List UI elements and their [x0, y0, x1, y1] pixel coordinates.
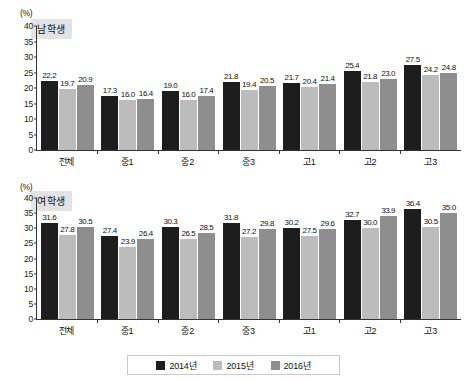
bar: 36.4 [404, 209, 421, 319]
bar-value-label: 27.2 [242, 227, 256, 236]
x-axis-label: 전체 [36, 155, 97, 168]
bar-value-label: 16.0 [121, 90, 135, 99]
bar-value-label: 23.0 [381, 69, 395, 78]
bar-value-label: 30.5 [78, 217, 92, 226]
x-axis-label: 고2 [340, 324, 401, 337]
bar: 26.4 [137, 239, 154, 319]
chart-page: (%) 남학생 0510152025303540 22.219.720.917.… [0, 0, 468, 382]
bar: 30.5 [77, 227, 94, 319]
x-axis-labels-male: 전체중1중2중3고1고2고3 [36, 155, 461, 168]
bar: 27.8 [59, 235, 76, 319]
bar: 30.2 [283, 228, 300, 319]
bar-value-label: 21.8 [224, 72, 238, 81]
bar: 21.4 [319, 84, 336, 150]
bar: 29.8 [259, 229, 276, 319]
y-axis-unit-male: (%) [20, 8, 32, 18]
bar-value-label: 22.2 [42, 71, 56, 80]
bar-value-label: 27.8 [60, 225, 74, 234]
bar-group: 27.423.926.4 [98, 198, 159, 319]
bar-value-label: 26.4 [139, 229, 153, 238]
bar-value-label: 30.2 [285, 218, 299, 227]
bar: 32.7 [344, 220, 361, 319]
bar-value-label: 16.0 [181, 90, 195, 99]
bar-group: 22.219.720.9 [37, 26, 98, 150]
bar: 30.0 [362, 228, 379, 319]
bar: 31.8 [223, 223, 240, 319]
bar: 19.0 [162, 91, 179, 150]
legend-label: 2016년 [284, 359, 311, 372]
bar-value-label: 30.5 [424, 217, 438, 226]
bar-groups-male: 22.219.720.917.316.016.419.016.017.421.8… [37, 26, 461, 150]
bar: 30.3 [162, 227, 179, 319]
bar-value-label: 26.5 [181, 229, 195, 238]
x-axis-label: 중2 [157, 324, 218, 337]
bar: 16.4 [137, 99, 154, 150]
bar: 16.0 [119, 100, 136, 150]
bar-value-label: 25.4 [345, 61, 359, 70]
bar-value-label: 24.2 [424, 65, 438, 74]
bar: 29.6 [319, 229, 336, 319]
legend-item: 2016년 [271, 359, 311, 372]
bar: 27.5 [301, 236, 318, 319]
bar-value-label: 20.5 [260, 76, 274, 85]
legend-swatch-icon [271, 361, 280, 370]
bar: 28.5 [198, 233, 215, 319]
x-axis-label: 중1 [97, 324, 158, 337]
bar-value-label: 21.7 [285, 73, 299, 82]
bar-group: 19.016.017.4 [158, 26, 219, 150]
bar: 20.5 [259, 86, 276, 150]
x-axis-label: 고2 [340, 155, 401, 168]
bar-group: 31.827.229.8 [219, 198, 280, 319]
bar-value-label: 19.4 [242, 80, 256, 89]
bar-value-label: 23.9 [121, 237, 135, 246]
bar: 31.6 [41, 223, 58, 319]
bar: 20.4 [301, 87, 318, 150]
bar: 27.5 [404, 65, 421, 150]
bar: 24.2 [422, 75, 439, 150]
bar: 24.8 [440, 73, 457, 150]
bar-value-label: 20.4 [303, 77, 317, 86]
bar-value-label: 17.4 [199, 86, 213, 95]
legend-item: 2014년 [156, 359, 196, 372]
bar-value-label: 33.9 [381, 206, 395, 215]
legend-item: 2015년 [213, 359, 253, 372]
bar-group: 21.720.421.4 [279, 26, 340, 150]
x-axis-label: 고1 [279, 155, 340, 168]
bar: 19.4 [241, 90, 258, 150]
bar: 33.9 [380, 216, 397, 319]
bar: 20.9 [77, 85, 94, 150]
bar-value-label: 19.7 [60, 79, 74, 88]
chart-legend: 2014년2015년2016년 [127, 355, 340, 375]
chart-panel-male: (%) 남학생 0510152025303540 22.219.720.917.… [0, 8, 468, 178]
bar-group: 30.326.528.5 [158, 198, 219, 319]
bar: 27.4 [101, 236, 118, 319]
bar-value-label: 32.7 [345, 210, 359, 219]
bar: 17.3 [101, 96, 118, 150]
x-axis-label: 고3 [400, 155, 461, 168]
x-axis-label: 중3 [218, 324, 279, 337]
plot-area-male: 0510152025303540 22.219.720.917.316.016.… [36, 26, 461, 151]
bar: 25.4 [344, 71, 361, 150]
bar-value-label: 21.8 [363, 72, 377, 81]
bar: 23.9 [119, 247, 136, 319]
bar: 17.4 [198, 96, 215, 150]
x-axis-label: 중1 [97, 155, 158, 168]
bar-value-label: 27.4 [103, 226, 117, 235]
bar-value-label: 24.8 [442, 63, 456, 72]
bar-group: 21.819.420.5 [219, 26, 280, 150]
bar-value-label: 30.0 [363, 218, 377, 227]
legend-swatch-icon [213, 361, 222, 370]
x-axis-label: 전체 [36, 324, 97, 337]
bar: 26.5 [180, 239, 197, 319]
legend-swatch-icon [156, 361, 165, 370]
bar-group: 36.430.535.0 [400, 198, 461, 319]
plot-area-female: 0510152025303540 31.627.830.527.423.926.… [36, 198, 461, 320]
bar: 16.0 [180, 100, 197, 150]
bar: 19.7 [59, 89, 76, 150]
bar: 22.2 [41, 81, 58, 150]
bar-value-label: 16.4 [139, 89, 153, 98]
x-axis-label: 고3 [400, 324, 461, 337]
x-axis-label: 중2 [157, 155, 218, 168]
bar: 30.5 [422, 227, 439, 319]
x-axis-label: 중3 [218, 155, 279, 168]
